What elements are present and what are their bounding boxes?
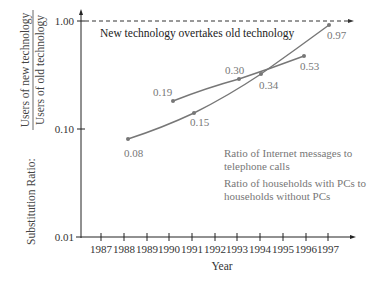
legend-entry-pcs-line2: households without PCs (224, 190, 330, 202)
legend-entry-pcs-line1: Ratio of households with PCs to (224, 177, 367, 189)
reference-arrow-icon (348, 19, 354, 23)
x-tick-label: 1988 (113, 243, 136, 255)
legend-entry-internet-line2: telephone calls (224, 160, 290, 172)
data-label: 0.08 (124, 147, 144, 159)
x-axis-arrow-icon (350, 235, 356, 239)
data-point (237, 77, 241, 81)
x-tick-label: 1990 (158, 243, 181, 255)
x-tick-label: 1996 (295, 243, 318, 255)
data-label: 0.30 (225, 64, 245, 76)
data-point (327, 23, 331, 27)
substitution-ratio-chart: Substitution Ratio: Users of new technol… (0, 0, 367, 281)
y-axis-label-denominator: Users of old technology (34, 15, 47, 125)
x-tick-label: 1991 (181, 243, 203, 255)
x-tick-label: 1997 (317, 243, 340, 255)
y-axis-arrow-icon (79, 9, 83, 15)
data-label: 0.97 (327, 29, 347, 41)
axes: 1.00 0.10 0.01 1987 1988 1989 1990 1991 … (55, 9, 356, 272)
data-label: 0.15 (190, 116, 210, 128)
data-point (302, 54, 306, 58)
y-tick-label: 0.10 (55, 123, 75, 135)
x-axis-label: Year (211, 260, 232, 272)
data-label: 0.53 (300, 60, 320, 72)
x-tick-label: 1993 (226, 243, 249, 255)
y-axis-label: Substitution Ratio: Users of new technol… (19, 10, 47, 245)
data-point (192, 111, 196, 115)
x-tick-label: 1995 (272, 243, 295, 255)
legend: Ratio of Internet messages to telephone … (224, 147, 367, 202)
y-tick-label: 0.01 (55, 231, 74, 243)
x-tick-label: 1994 (249, 243, 272, 255)
x-tick-label: 1992 (204, 243, 226, 255)
data-label: 0.34 (259, 79, 279, 91)
data-point (259, 72, 263, 76)
data-label: 0.19 (153, 86, 173, 98)
legend-entry-internet-line1: Ratio of Internet messages to (224, 147, 353, 159)
y-tick-label: 1.00 (55, 15, 75, 27)
overtake-annotation: New technology overtakes old technology (100, 27, 294, 40)
series-internet-messages: 0.19 0.30 0.53 (153, 54, 320, 103)
data-point (126, 137, 130, 141)
data-point (171, 99, 175, 103)
x-tick-label: 1987 (90, 243, 113, 255)
x-tick-label: 1989 (136, 243, 159, 255)
y-axis-label-prefix: Substitution Ratio: (25, 158, 37, 245)
y-axis-label-numerator: Users of new technology (19, 12, 32, 127)
